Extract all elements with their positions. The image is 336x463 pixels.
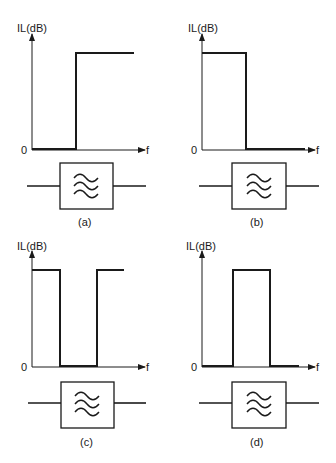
zero-label: 0	[21, 361, 27, 373]
x-axis-label: f	[316, 361, 319, 373]
caption: (d)	[250, 436, 263, 448]
panel-a	[27, 34, 146, 209]
y-axis-label: IL(dB)	[17, 240, 47, 252]
caption: (a)	[78, 216, 91, 228]
response-curve	[32, 53, 134, 149]
panel-b	[199, 34, 319, 209]
filter-response-diagram	[0, 0, 336, 463]
y-axis-label: IL(dB)	[17, 22, 47, 34]
response-curve	[202, 270, 299, 366]
x-axis-label: f	[146, 144, 149, 156]
x-axis-label: f	[146, 361, 149, 373]
response-curve	[202, 53, 305, 149]
caption: (c)	[80, 436, 93, 448]
zero-label: 0	[191, 144, 197, 156]
y-axis-label: IL(dB)	[186, 240, 216, 252]
panel-c	[28, 251, 146, 428]
response-curve	[32, 270, 124, 366]
y-axis-label: IL(dB)	[188, 22, 218, 34]
zero-label: 0	[21, 144, 27, 156]
caption: (b)	[250, 216, 263, 228]
zero-label: 0	[191, 361, 197, 373]
panel-d	[199, 251, 319, 428]
x-axis-label: f	[316, 144, 319, 156]
